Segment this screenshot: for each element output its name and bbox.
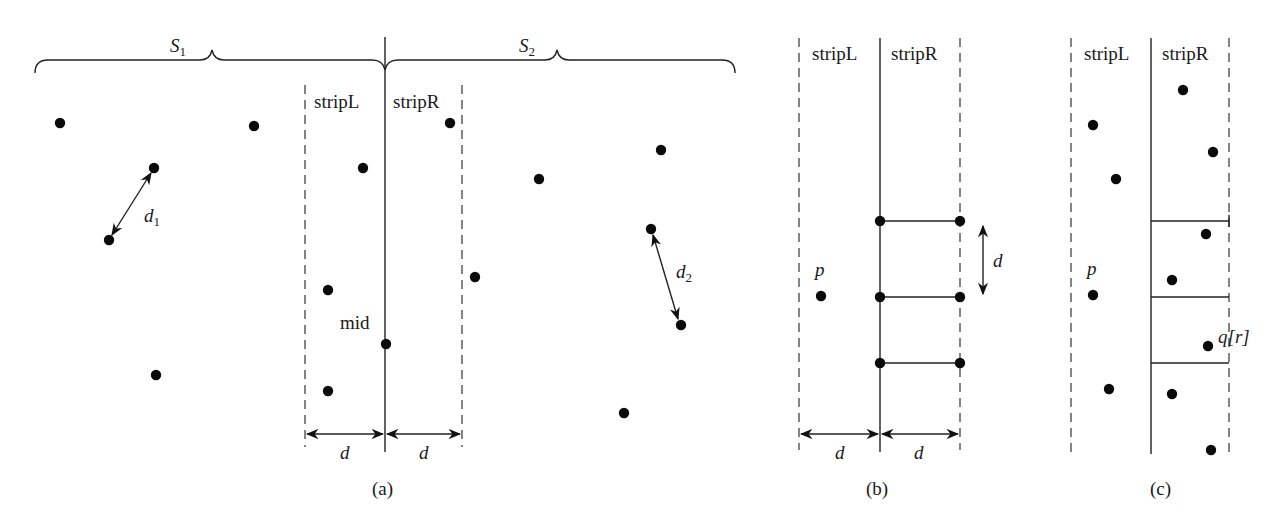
panel-c: stripL stripR p q[r] (c) bbox=[1071, 38, 1250, 500]
label-stripR: stripR bbox=[393, 91, 440, 112]
point bbox=[323, 386, 333, 396]
label-width-left-b: d bbox=[835, 442, 845, 463]
label-height-d: d bbox=[993, 250, 1003, 271]
point bbox=[816, 291, 826, 301]
point bbox=[249, 121, 259, 131]
caption-a: (a) bbox=[372, 478, 393, 500]
label-s1: S1 bbox=[170, 35, 186, 59]
label-width-right: d bbox=[419, 442, 429, 463]
point bbox=[955, 216, 965, 226]
label-stripL-c: stripL bbox=[1084, 43, 1129, 64]
point bbox=[619, 408, 629, 418]
label-p-b: p bbox=[813, 259, 825, 280]
label-d1: d1 bbox=[144, 205, 160, 229]
label-p-c: p bbox=[1085, 258, 1097, 279]
point bbox=[1178, 85, 1188, 95]
point bbox=[1088, 120, 1098, 130]
point bbox=[656, 145, 666, 155]
point bbox=[1201, 229, 1211, 239]
closest-pair-divide-and-conquer-figure: S1 S2 stripL stripR mid d d d1 d2 (a) bbox=[0, 0, 1277, 524]
point bbox=[875, 292, 885, 302]
point bbox=[955, 358, 965, 368]
point bbox=[445, 118, 455, 128]
point bbox=[55, 118, 65, 128]
label-mid: mid bbox=[340, 312, 370, 333]
panel-a: S1 S2 stripL stripR mid d d d1 d2 (a) bbox=[35, 35, 735, 500]
point bbox=[1111, 174, 1121, 184]
point bbox=[646, 224, 656, 234]
points-c bbox=[1088, 85, 1218, 455]
point bbox=[1208, 147, 1218, 157]
point bbox=[1206, 445, 1216, 455]
label-width-left: d bbox=[340, 442, 350, 463]
label-q-r: q[r] bbox=[1218, 326, 1250, 347]
point bbox=[470, 272, 480, 282]
point bbox=[676, 320, 686, 330]
points-b bbox=[816, 216, 965, 368]
brace-s1 bbox=[35, 50, 385, 73]
point bbox=[1088, 290, 1098, 300]
point bbox=[875, 358, 885, 368]
panel-b: stripL stripR d p d d (b) bbox=[799, 38, 1003, 500]
distance-arrow-d2 bbox=[653, 235, 678, 319]
point bbox=[875, 216, 885, 226]
point bbox=[104, 235, 114, 245]
point bbox=[151, 370, 161, 380]
point bbox=[1203, 341, 1213, 351]
caption-b: (b) bbox=[866, 478, 888, 500]
caption-c: (c) bbox=[1150, 478, 1171, 500]
label-width-right-b: d bbox=[914, 442, 924, 463]
point bbox=[1167, 275, 1177, 285]
label-stripL-b: stripL bbox=[812, 43, 857, 64]
label-stripL: stripL bbox=[314, 91, 359, 112]
label-d2: d2 bbox=[676, 261, 692, 285]
point bbox=[955, 292, 965, 302]
point bbox=[534, 174, 544, 184]
point bbox=[381, 339, 391, 349]
label-stripR-b: stripR bbox=[891, 43, 938, 64]
point bbox=[358, 163, 368, 173]
diagram-canvas: S1 S2 stripL stripR mid d d d1 d2 (a) bbox=[0, 0, 1277, 524]
points-a bbox=[55, 118, 686, 418]
point bbox=[149, 163, 159, 173]
label-s2: S2 bbox=[519, 35, 535, 59]
point bbox=[323, 285, 333, 295]
brace-s2 bbox=[385, 50, 735, 73]
point bbox=[1167, 389, 1177, 399]
point bbox=[1104, 384, 1114, 394]
label-stripR-c: stripR bbox=[1162, 43, 1209, 64]
